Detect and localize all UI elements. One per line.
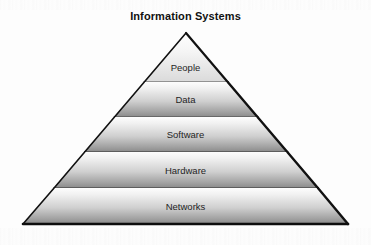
- pyramid-tier-people: [144, 33, 227, 82]
- pyramid-tier-label-networks: Networks: [0, 201, 371, 212]
- pyramid-tier-label-people: People: [0, 62, 371, 73]
- pyramid-tier-label-software: Software: [0, 129, 371, 140]
- diagram-canvas: Information Systems: [0, 0, 371, 245]
- pyramid-tier-label-data: Data: [0, 94, 371, 105]
- pyramid-tier-label-hardware: Hardware: [0, 165, 371, 176]
